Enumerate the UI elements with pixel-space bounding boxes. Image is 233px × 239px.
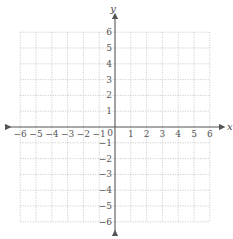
- x-tick-label: 4: [175, 129, 181, 139]
- y-tick-label: 1: [106, 106, 112, 116]
- x-tick-label: 3: [160, 129, 166, 139]
- y-tick-label: 5: [106, 43, 112, 53]
- origin-label: 0: [107, 128, 113, 138]
- y-tick-label: 6: [106, 27, 112, 37]
- coordinate-plane: −6−5−4−3−2−1123456 654321−1−2−3−4−5−6 0 …: [0, 0, 233, 239]
- y-tick-label: −2: [99, 154, 112, 164]
- y-tick-label: −6: [99, 217, 113, 227]
- y-tick-label: −4: [99, 185, 113, 195]
- y-tick-label: −5: [99, 201, 113, 211]
- x-tick-label: −2: [77, 129, 90, 139]
- x-tick-label: −5: [29, 129, 43, 139]
- x-tick-labels: −6−5−4−3−2−1123456: [14, 129, 213, 139]
- x-tick-label: −6: [14, 129, 28, 139]
- x-tick-label: 5: [191, 129, 197, 139]
- x-tick-label: −3: [61, 129, 75, 139]
- y-tick-label: 3: [106, 75, 112, 85]
- y-tick-label: −3: [99, 169, 113, 179]
- x-tick-label: 6: [207, 129, 213, 139]
- y-axis-label: y: [109, 3, 116, 14]
- x-tick-label: 1: [128, 129, 134, 139]
- x-tick-label: 2: [144, 129, 150, 139]
- y-tick-label: −1: [99, 138, 112, 148]
- x-tick-label: −4: [45, 129, 59, 139]
- y-tick-label: 4: [106, 59, 112, 69]
- x-axis-label: x: [227, 121, 233, 132]
- y-tick-label: 2: [106, 90, 112, 100]
